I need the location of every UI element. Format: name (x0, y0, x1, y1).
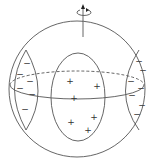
minus-sign: − (139, 65, 147, 75)
plus-sign: + (93, 81, 101, 91)
sphere-diagram: − − − − − − − − − − − − − + + + + + + (0, 0, 154, 162)
rotation-arrow-icon (77, 10, 91, 15)
minus-sign: − (127, 76, 135, 86)
minus-sign: − (16, 83, 24, 93)
minus-sign: − (133, 109, 141, 119)
plus-sign: + (70, 93, 78, 103)
minus-sign: − (137, 83, 145, 93)
center-region (51, 53, 105, 141)
minus-sign: − (16, 69, 24, 79)
plus-sign: + (84, 125, 92, 135)
plus-sign: + (67, 117, 75, 127)
minus-sign: − (21, 104, 29, 114)
minus-sign: − (128, 90, 136, 100)
plus-sign: + (90, 112, 98, 122)
minus-sign: − (28, 89, 36, 99)
minus-sign: − (26, 76, 34, 86)
axis-arrowhead-icon (81, 4, 85, 9)
minus-sign: − (23, 58, 31, 68)
rotation-arrowhead-icon (86, 8, 89, 12)
plus-sign: + (66, 76, 74, 86)
